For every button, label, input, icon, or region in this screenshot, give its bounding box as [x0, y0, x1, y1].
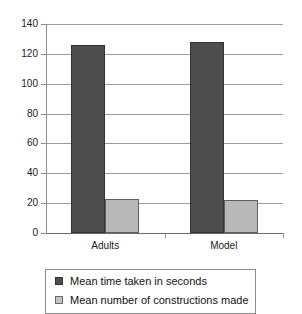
y-axis-tick-label: 100: [21, 79, 38, 89]
y-axis-tick-label: 60: [27, 138, 38, 148]
y-axis-tick-label: 140: [21, 19, 38, 29]
legend-label-series-1: Mean number of constructions made: [70, 294, 249, 306]
y-axis-tick-label: 40: [27, 168, 38, 178]
x-axis-tick: [283, 233, 284, 238]
bar-model-series-1: [224, 200, 258, 233]
plot-area: [46, 24, 283, 233]
legend-swatch-icon-series-1: [55, 296, 63, 304]
x-axis-category-label: Model: [165, 240, 284, 252]
legend-item-series-0: Mean time taken in seconds: [55, 275, 207, 287]
x-axis-category-label: Adults: [46, 240, 165, 252]
bar-adults-series-1: [105, 199, 139, 233]
legend-swatch-icon-series-0: [55, 277, 63, 285]
y-axis-tick: [41, 233, 46, 234]
y-axis-tick-label: 0: [32, 228, 38, 238]
y-axis-tick-label: 80: [27, 109, 38, 119]
bar-model-series-0: [190, 42, 224, 233]
legend-label-series-0: Mean time taken in seconds: [70, 275, 207, 287]
legend: Mean time taken in seconds Mean number o…: [45, 269, 256, 314]
bar-adults-series-0: [71, 45, 105, 233]
y-axis-tick-label: 120: [21, 49, 38, 59]
x-axis-tick: [165, 233, 166, 238]
legend-item-series-1: Mean number of constructions made: [55, 294, 249, 306]
y-axis-tick-label: 20: [27, 198, 38, 208]
